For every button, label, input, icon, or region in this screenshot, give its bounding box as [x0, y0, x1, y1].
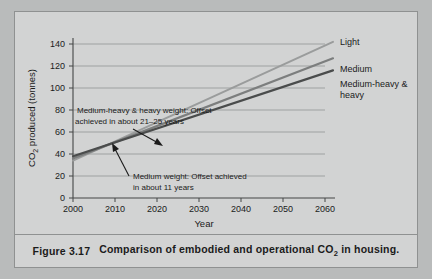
legend-label-medium: Medium [340, 64, 372, 74]
y-axis-title-main: CO [26, 153, 37, 167]
svg-text:CO2 produced (tonnes): CO2 produced (tonnes) [26, 69, 39, 167]
y-tick-label: 80 [55, 105, 65, 115]
figure-caption-text-before: Comparison of embodied and operational C… [99, 243, 334, 255]
x-tick-label: 2000 [63, 204, 83, 214]
x-axis-tick-labels: 2000 2010 2020 2030 2040 2050 2060 [63, 204, 335, 214]
y-tick-label: 0 [60, 193, 65, 203]
figure-card: 140 120 100 80 60 40 20 0 2000 2010 2020… [14, 11, 418, 268]
legend-label-medium-heavy-line1: Medium-heavy & [340, 79, 408, 89]
annotation-medium-heavy: Medium-heavy & heavy weight: Offset achi… [75, 106, 212, 146]
y-tick-label: 20 [55, 171, 65, 181]
annotation-medium-arrow-line [114, 147, 129, 176]
y-axis-tick-labels: 140 120 100 80 60 40 20 0 [50, 39, 65, 203]
x-tick-label: 2050 [273, 204, 293, 214]
annotation-medium-arrow-head [112, 143, 119, 152]
x-tick-label: 2040 [231, 204, 251, 214]
x-axis-title: Year [194, 218, 213, 229]
x-tick-label: 2060 [315, 204, 335, 214]
y-tick-label: 40 [55, 149, 65, 159]
x-tick-label: 2020 [147, 204, 167, 214]
x-tick-label: 2030 [189, 204, 209, 214]
annotation-medium-line1: Medium weight: Offset achieved [133, 172, 247, 181]
legend-label-medium-heavy-line2: heavy [340, 90, 365, 100]
annotation-medium: Medium weight: Offset achieved in about … [112, 143, 247, 192]
y-tick-label: 60 [55, 127, 65, 137]
y-axis-ticks [69, 44, 73, 198]
figure-caption-text-after: in housing. [338, 243, 399, 255]
annotation-medium-heavy-line2: achieved in about 21–25 years [75, 117, 184, 126]
annotation-medium-heavy-line1: Medium-heavy & heavy weight: Offset [77, 106, 212, 115]
legend: Light Medium Medium-heavy & heavy [340, 37, 408, 100]
figure-caption-text: Comparison of embodied and operational C… [99, 243, 399, 258]
x-tick-label: 2010 [105, 204, 125, 214]
annotation-medium-heavy-arrow-head [154, 138, 163, 146]
x-axis-ticks [73, 198, 325, 202]
y-axis-title-rest: produced (tonnes) [26, 69, 37, 149]
figure-caption-number: Figure 3.17 [33, 245, 91, 257]
y-tick-label: 100 [50, 83, 65, 93]
figure-caption: Figure 3.17 Comparison of embodied and o… [15, 235, 417, 267]
annotation-medium-line2: in about 11 years [133, 183, 194, 192]
y-tick-label: 120 [50, 61, 65, 71]
legend-label-light: Light [340, 37, 360, 47]
y-axis-title: CO2 produced (tonnes) [26, 69, 39, 167]
chart-plot-area: 140 120 100 80 60 40 20 0 2000 2010 2020… [15, 12, 419, 234]
y-tick-label: 140 [50, 39, 65, 49]
